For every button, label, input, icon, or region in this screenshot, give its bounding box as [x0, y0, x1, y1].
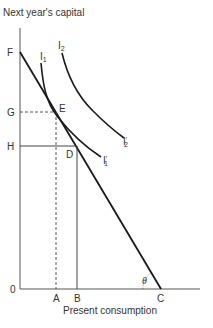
curve-label-i2-prime: I′2: [123, 136, 128, 148]
point-label-e: E: [59, 103, 66, 114]
point-label-b: B: [74, 293, 81, 304]
budget-line-fc: [20, 52, 161, 289]
y-axis-label: Next year's capital: [3, 7, 84, 18]
curve-label-i1: I1: [40, 51, 47, 63]
angle-label-theta: θ: [142, 275, 147, 286]
diagram-canvas: Next year's capital Present consumption …: [0, 0, 213, 328]
point-label-d: D: [66, 149, 73, 160]
point-label-a: A: [53, 293, 60, 304]
curve-label-i2: I2: [58, 40, 65, 52]
x-axis-label: Present consumption: [63, 305, 157, 316]
point-label-g: G: [7, 107, 15, 118]
indifference-curve-i2: [62, 53, 124, 138]
point-label-f: F: [7, 47, 13, 58]
point-label-c: C: [157, 293, 164, 304]
origin-label: 0: [10, 284, 16, 295]
point-label-h: H: [7, 141, 14, 152]
curve-label-i1-prime: I′1: [103, 155, 108, 167]
